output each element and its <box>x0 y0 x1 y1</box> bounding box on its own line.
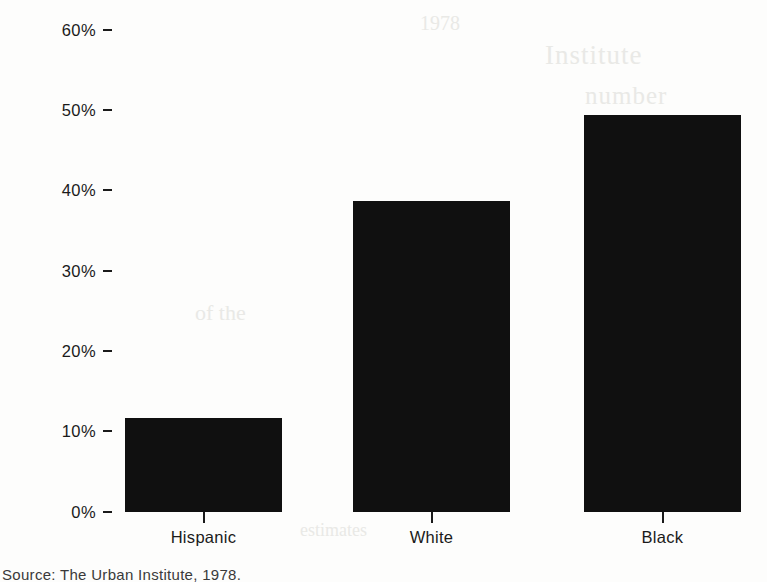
y-axis-tick-label: 20% <box>62 342 96 361</box>
bar[interactable] <box>353 201 510 512</box>
y-axis-tick: 50% <box>62 100 112 120</box>
x-axis-tick <box>431 512 433 523</box>
y-axis-tick-label: 30% <box>62 262 96 281</box>
y-axis-tick: 60% <box>62 20 112 40</box>
y-axis-tick-dash <box>103 109 112 111</box>
x-axis-category-label: Hispanic <box>85 528 322 547</box>
y-axis-tick: 30% <box>62 261 112 281</box>
y-axis-tick-label: 0% <box>71 503 96 522</box>
y-axis-tick-dash <box>103 29 112 31</box>
source-note-text: Source: The Urban Institute, 1978. <box>2 566 241 582</box>
y-axis-tick: 20% <box>62 341 112 361</box>
source-note: Source: The Urban Institute, 1978. <box>0 566 767 582</box>
y-axis-tick-label: 50% <box>62 101 96 120</box>
y-axis: 60%50%40%30%20%10%0% <box>0 0 112 582</box>
y-axis-tick-dash <box>103 350 112 352</box>
y-axis-tick: 10% <box>62 422 112 442</box>
y-axis-tick-dash <box>103 189 112 191</box>
y-axis-tick-label: 60% <box>62 21 96 40</box>
bar[interactable] <box>125 418 282 512</box>
y-axis-tick-label: 40% <box>62 181 96 200</box>
y-axis-tick-label: 10% <box>62 422 96 441</box>
y-axis-tick: 0% <box>71 502 112 522</box>
y-axis-tick-dash <box>103 270 112 272</box>
y-axis-tick: 40% <box>62 181 112 201</box>
x-axis-category-label: Black <box>544 528 767 547</box>
bar[interactable] <box>584 115 741 512</box>
plot-area: HispanicWhiteBlack <box>112 0 767 582</box>
x-axis-category-label: White <box>313 528 550 547</box>
y-axis-tick-dash <box>103 430 112 432</box>
x-axis-tick <box>662 512 664 523</box>
bar-chart: 60%50%40%30%20%10%0% HispanicWhiteBlack <box>0 0 767 582</box>
x-axis-tick <box>203 512 205 523</box>
y-axis-tick-dash <box>103 511 112 513</box>
